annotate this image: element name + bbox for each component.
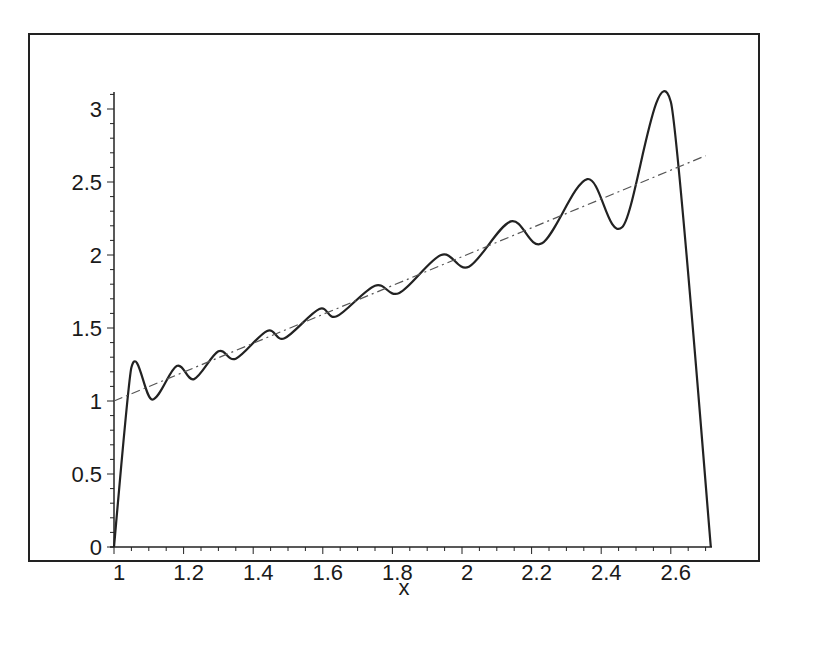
x-tick-label: 2.4 <box>591 560 622 585</box>
y-tick-label: 2.5 <box>71 170 102 195</box>
x-tick-label: 1.6 <box>313 560 344 585</box>
x-tick-label: 1.4 <box>243 560 274 585</box>
x-tick-label: 2.2 <box>521 560 552 585</box>
y-tick-label: 0.5 <box>71 462 102 487</box>
series-reference-line <box>114 156 706 401</box>
x-axis-label: x <box>399 575 410 600</box>
x-tick-label: 1 <box>113 560 125 585</box>
chart: 00.511.522.53 11.21.41.61.822.22.42.6 x <box>0 0 816 646</box>
x-tick-label: 1.2 <box>173 560 204 585</box>
y-axis-ticks: 00.511.522.53 <box>71 94 114 560</box>
series-group <box>114 91 711 547</box>
axes <box>110 92 712 547</box>
series-approximation-line <box>114 91 711 547</box>
x-tick-label: 2.6 <box>661 560 692 585</box>
y-tick-label: 1.5 <box>71 316 102 341</box>
y-tick-label: 0 <box>90 535 102 560</box>
y-tick-label: 1 <box>90 389 102 414</box>
x-tick-label: 2 <box>461 560 473 585</box>
y-tick-label: 3 <box>90 97 102 122</box>
y-tick-label: 2 <box>90 243 102 268</box>
